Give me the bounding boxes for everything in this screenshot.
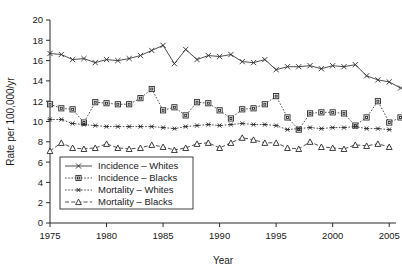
- y-tick-label: 14: [32, 75, 43, 86]
- line-chart: 0246810121416182019751980198519901995200…: [0, 0, 402, 274]
- series-markers: [47, 117, 391, 131]
- x-axis-title: Year: [213, 255, 234, 266]
- series-4: [47, 135, 392, 154]
- legend-label: Mortality – Blacks: [98, 196, 173, 207]
- series-line: [50, 119, 389, 129]
- y-tick-label: 8: [38, 136, 43, 147]
- series-line: [50, 45, 401, 88]
- series-2: [47, 86, 402, 132]
- axes: 0246810121416182019751980198519901995200…: [5, 14, 400, 266]
- series-markers: [47, 86, 402, 132]
- legend-label: Incidence – Blacks: [98, 172, 177, 183]
- y-tick-label: 6: [38, 157, 43, 168]
- x-tick-label: 1995: [266, 230, 287, 241]
- legend: Incidence – WhitesIncidence – BlacksMort…: [60, 157, 193, 209]
- legend-label: Mortality – Whites: [98, 184, 174, 195]
- x-tick-label: 1975: [39, 230, 60, 241]
- y-tick-label: 16: [32, 55, 43, 66]
- y-tick-label: 20: [32, 14, 43, 25]
- series-markers: [47, 135, 392, 154]
- x-tick-label: 1990: [209, 230, 230, 241]
- y-tick-label: 18: [32, 35, 43, 46]
- y-tick-label: 12: [32, 96, 43, 107]
- x-tick-label: 2000: [322, 230, 343, 241]
- series-3: [47, 117, 391, 131]
- x-tick-label: 2005: [379, 230, 400, 241]
- series-markers: [47, 43, 402, 91]
- x-tick-label: 1980: [96, 230, 117, 241]
- y-axis-title: Rate per 100,000/yr: [5, 77, 16, 166]
- y-tick-label: 4: [38, 177, 43, 188]
- plot-area: [47, 43, 402, 154]
- x-tick-label: 1985: [153, 230, 174, 241]
- y-tick-label: 10: [32, 116, 43, 127]
- series-line: [50, 89, 401, 130]
- y-tick-label: 0: [38, 217, 43, 228]
- y-tick-label: 2: [38, 197, 43, 208]
- series-1: [47, 43, 402, 91]
- chart-canvas: 0246810121416182019751980198519901995200…: [0, 0, 402, 274]
- legend-label: Incidence – Whites: [98, 160, 179, 171]
